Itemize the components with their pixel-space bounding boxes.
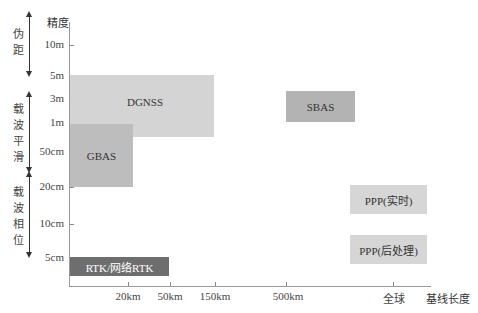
carrier-smoothing-range-arrow [29, 96, 30, 168]
region-ppp-realtime: PPP(实时) [350, 185, 427, 214]
y-tick-10m: 10m [44, 38, 64, 50]
x-tick-global: 全球 [383, 290, 405, 306]
y-axis-title: 精度 [47, 14, 69, 30]
pseudorange-char-1: 伪 [10, 26, 26, 42]
region-sbas-label: SBAS [307, 101, 335, 113]
pseudorange-label: 伪 距 [10, 26, 26, 58]
region-gbas-label: GBAS [87, 150, 116, 162]
y-tick-mark-10m [70, 45, 74, 46]
region-sbas: SBAS [286, 91, 355, 122]
y-tick-10cm: 10cm [40, 217, 64, 229]
carrier-phase-range-arrow [29, 176, 30, 253]
region-ppp-postprocess-label: PPP(后处理) [359, 242, 418, 258]
carrier-smoothing-char-2: 波 [10, 117, 26, 133]
x-tick-mark-50km [170, 282, 171, 286]
carrier-phase-char-3: 相 [10, 216, 26, 232]
pseudorange-char-2: 距 [10, 42, 26, 58]
region-rtk: RTK/网络RTK [70, 257, 169, 276]
carrier-smoothing-char-3: 平 [10, 133, 26, 149]
x-tick-500km: 500km [273, 290, 304, 302]
y-tick-3m: 3m [50, 92, 64, 104]
carrier-smoothing-label: 载 波 平 滑 [10, 101, 26, 165]
x-tick-mark-20km [128, 282, 129, 286]
carrier-smoothing-char-4: 滑 [10, 149, 26, 165]
carrier-phase-char-4: 位 [10, 232, 26, 248]
carrier-phase-char-2: 波 [10, 200, 26, 216]
x-tick-20km: 20km [115, 290, 140, 302]
carrier-phase-label: 载 波 相 位 [10, 184, 26, 248]
y-tick-5m: 5m [50, 69, 64, 81]
x-tick-mark-150km [215, 282, 216, 286]
region-dgnss-label: DGNSS [127, 96, 163, 108]
y-tick-mark-10cm [70, 224, 74, 225]
region-ppp-postprocess: PPP(后处理) [350, 235, 427, 264]
y-tick-1m: 1m [50, 116, 64, 128]
y-tick-20cm: 20cm [40, 180, 64, 192]
x-axis-line [69, 286, 431, 287]
carrier-smoothing-char-1: 载 [10, 101, 26, 117]
x-axis-title: 基线长度 [426, 290, 470, 306]
y-tick-mark-20cm [70, 187, 74, 188]
y-tick-50cm: 50cm [40, 145, 64, 157]
x-tick-mark-global [393, 282, 394, 286]
region-ppp-realtime-label: PPP(实时) [365, 192, 413, 208]
x-tick-50km: 50km [157, 290, 182, 302]
pseudorange-range-arrow [29, 16, 30, 72]
carrier-phase-char-1: 载 [10, 184, 26, 200]
y-tick-5cm: 5cm [45, 251, 64, 263]
region-gbas: GBAS [70, 124, 133, 187]
x-tick-150km: 150km [200, 290, 231, 302]
x-tick-mark-500km [286, 282, 287, 286]
region-rtk-label: RTK/网络RTK [86, 259, 154, 275]
